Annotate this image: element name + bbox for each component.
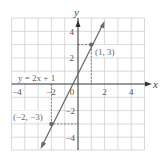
x-axis-arrow-icon	[145, 82, 152, 87]
y-axis-arrow-icon	[76, 20, 81, 27]
x-tick-label: −2	[46, 87, 56, 97]
x-tick-label: 2	[102, 87, 107, 97]
equation-label: y = 2x + 1	[18, 73, 55, 83]
line-arrow-down-icon	[41, 142, 47, 150]
point-label-1-3: (1, 3)	[95, 47, 115, 57]
y-tick-label: 2	[70, 53, 75, 63]
line-arrow-up-icon	[100, 21, 105, 29]
point-1-3	[89, 42, 93, 46]
y-tick-label: −2	[65, 106, 75, 116]
x-axis-label: x	[152, 78, 158, 90]
point-label-neg2-neg3: (−2, −3)	[13, 112, 43, 122]
x-tick-label: 4	[129, 87, 134, 97]
y-tick-label: −4	[65, 133, 75, 143]
coordinate-plane: x y −4 −2 0 2 4 4 2 −2 −4 (1, 3) (−2, −3…	[0, 0, 160, 154]
point-neg2-neg3	[49, 122, 53, 126]
y-tick-label: 4	[70, 27, 75, 37]
y-axis-label: y	[73, 6, 79, 18]
x-tick-label: −4	[12, 87, 22, 97]
